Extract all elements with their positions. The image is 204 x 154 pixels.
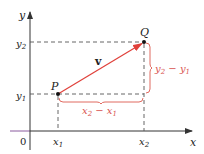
vector-v-label: v xyxy=(94,55,102,68)
point-p-label: P xyxy=(50,80,59,93)
vector-diagram: y x 0 y2 y1 x1 x2 P Q v x2 − x1 y2 − y1 xyxy=(0,0,204,154)
x1-tick-label: x1 xyxy=(53,136,63,149)
y-difference-label: y2 − y1 xyxy=(154,63,190,76)
vector-v-arrow xyxy=(58,44,142,95)
x-difference-label: x2 − x1 xyxy=(82,105,117,118)
x-axis-label: x xyxy=(190,136,197,149)
origin-label: 0 xyxy=(20,136,26,147)
y2-tick-label: y2 xyxy=(15,38,27,51)
point-q xyxy=(142,40,146,44)
point-q-label: Q xyxy=(140,26,149,39)
x2-tick-label: x2 xyxy=(139,136,150,149)
y1-tick-label: y1 xyxy=(15,90,26,103)
y-axis-label: y xyxy=(18,9,26,22)
bracket-vertical xyxy=(146,43,152,93)
bracket-horizontal xyxy=(59,98,143,104)
